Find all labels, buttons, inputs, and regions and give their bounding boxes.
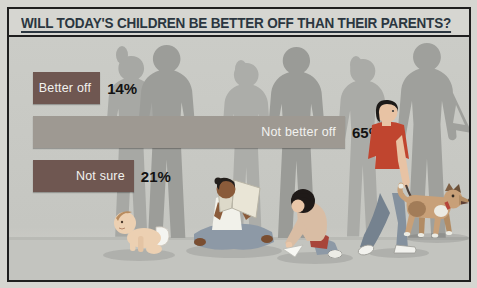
bar-category-label: Better off xyxy=(39,81,92,95)
infographic-frame: WILL TODAY'S CHILDREN BE BETTER OFF THAN… xyxy=(7,7,471,282)
bar-row-not-sure: Not sure 21% xyxy=(33,160,171,192)
bar-value-label: 65% xyxy=(352,124,382,141)
bars-layer: Better off 14% Not better off 65% Not su… xyxy=(9,37,469,280)
bar-category-label: Not sure xyxy=(76,169,125,183)
bar-fill: Better off xyxy=(33,72,100,104)
chart-title: WILL TODAY'S CHILDREN BE BETTER OFF THAN… xyxy=(21,14,451,31)
bar-category-label: Not better off xyxy=(261,125,336,139)
chart-area: Better off 14% Not better off 65% Not su… xyxy=(9,37,469,280)
title-band: WILL TODAY'S CHILDREN BE BETTER OFF THAN… xyxy=(9,9,469,37)
bar-fill: Not better off xyxy=(33,116,345,148)
bar-row-not-better-off: Not better off 65% xyxy=(33,116,382,148)
bar-value-label: 14% xyxy=(107,80,137,97)
bar-fill: Not sure xyxy=(33,160,134,192)
bar-value-label: 21% xyxy=(141,168,171,185)
bar-row-better-off: Better off 14% xyxy=(33,72,137,104)
